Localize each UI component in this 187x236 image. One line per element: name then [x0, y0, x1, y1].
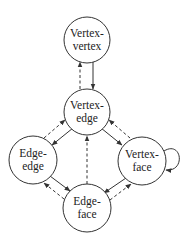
- node-edge-edge: Edge- edge: [9, 136, 57, 184]
- edge-ef-to-ee: [44, 183, 64, 199]
- node-label-line1: Vertex-: [125, 148, 159, 160]
- node-vertex-edge: Vertex- edge: [64, 89, 110, 135]
- edge-vf-to-ve: [109, 120, 130, 138]
- node-label-line2: edge: [22, 160, 44, 173]
- node-label-line2: face: [132, 161, 151, 173]
- node-label-line1: Vertex-: [70, 27, 104, 39]
- state-transition-diagram: Vertex- vertex Vertex- edge Edge- edge V…: [0, 0, 187, 236]
- edge-ve-to-ee: [52, 128, 73, 145]
- edge-ve-to-vf: [101, 128, 122, 145]
- node-edge-face: Edge- face: [63, 184, 111, 232]
- node-vertex-face: Vertex- face: [118, 137, 166, 185]
- edge-ee-to-ve: [44, 120, 65, 138]
- node-label-line2: face: [77, 208, 96, 220]
- edge-vf-to-ef: [104, 178, 126, 193]
- node-label-line1: Edge-: [19, 147, 47, 160]
- node-vertex-vertex: Vertex- vertex: [64, 17, 110, 63]
- node-label-line1: Vertex-: [70, 99, 104, 111]
- edge-ee-to-ef: [50, 176, 70, 191]
- node-label-line2: vertex: [73, 40, 102, 52]
- node-label-line1: Edge-: [73, 195, 101, 208]
- node-label-line2: edge: [76, 112, 98, 125]
